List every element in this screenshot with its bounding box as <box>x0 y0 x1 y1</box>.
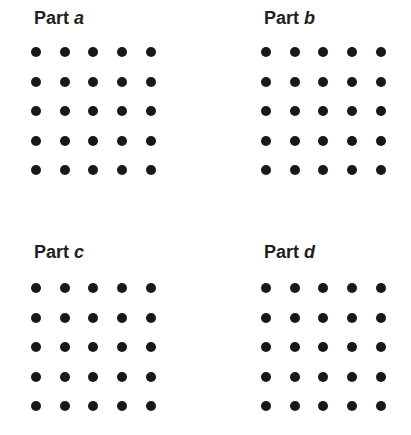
grid-dot <box>117 401 127 411</box>
grid-dot <box>261 77 271 87</box>
grid-dot <box>290 401 300 411</box>
panel-b-label: Part b <box>264 8 315 29</box>
label-letter: b <box>304 8 315 28</box>
grid-dot <box>88 313 98 323</box>
grid-dot <box>347 372 357 382</box>
grid-dot <box>347 342 357 352</box>
label-letter: a <box>74 8 84 28</box>
grid-dot <box>376 283 386 293</box>
grid-dot <box>146 342 156 352</box>
grid-dot <box>376 372 386 382</box>
panel-a: Part a <box>0 0 205 215</box>
grid-dot <box>347 136 357 146</box>
grid-dot <box>117 372 127 382</box>
grid-dot <box>88 283 98 293</box>
grid-dot <box>290 136 300 146</box>
grid-dot <box>261 342 271 352</box>
grid-dot <box>146 77 156 87</box>
grid-dot <box>290 106 300 116</box>
grid-dot <box>60 77 70 87</box>
grid-dot <box>31 372 41 382</box>
grid-dot <box>60 283 70 293</box>
grid-dot <box>318 283 328 293</box>
grid-dot <box>60 342 70 352</box>
grid-dot <box>31 47 41 57</box>
grid-dot <box>146 106 156 116</box>
grid-dot <box>318 165 328 175</box>
panel-d: Part d <box>230 236 411 435</box>
grid-dot <box>318 136 328 146</box>
grid-dot <box>117 342 127 352</box>
grid-dot <box>146 136 156 146</box>
grid-dot <box>261 283 271 293</box>
panel-c: Part c <box>0 236 205 435</box>
grid-dot <box>117 106 127 116</box>
grid-dot <box>347 47 357 57</box>
grid-dot <box>31 342 41 352</box>
grid-dot <box>88 77 98 87</box>
grid-dot <box>261 136 271 146</box>
grid-dot <box>60 106 70 116</box>
grid-dot <box>318 313 328 323</box>
grid-dot <box>60 401 70 411</box>
grid-dot <box>261 401 271 411</box>
grid-dot <box>31 136 41 146</box>
grid-dot <box>117 77 127 87</box>
grid-dot <box>376 313 386 323</box>
grid-dot <box>31 77 41 87</box>
grid-dot <box>376 77 386 87</box>
grid-dot <box>318 47 328 57</box>
grid-dot <box>376 401 386 411</box>
grid-dot <box>117 283 127 293</box>
grid-dot <box>117 165 127 175</box>
grid-dot <box>347 313 357 323</box>
grid-dot <box>318 342 328 352</box>
grid-dot <box>290 283 300 293</box>
grid-dot <box>318 401 328 411</box>
label-prefix: Part <box>34 8 69 28</box>
grid-dot <box>88 165 98 175</box>
grid-dot <box>347 283 357 293</box>
grid-dot <box>31 165 41 175</box>
grid-dot <box>117 47 127 57</box>
grid-dot <box>146 47 156 57</box>
grid-dot <box>31 313 41 323</box>
grid-dot <box>88 342 98 352</box>
grid-dot <box>261 47 271 57</box>
grid-dot <box>318 106 328 116</box>
grid-dot <box>88 47 98 57</box>
grid-dot <box>290 47 300 57</box>
grid-dot <box>318 372 328 382</box>
grid-dot <box>146 372 156 382</box>
grid-dot <box>31 401 41 411</box>
grid-dot <box>31 106 41 116</box>
grid-dot <box>117 136 127 146</box>
label-prefix: Part <box>264 8 299 28</box>
grid-dot <box>290 313 300 323</box>
label-letter: c <box>74 242 84 262</box>
label-prefix: Part <box>264 242 299 262</box>
grid-dot <box>318 77 328 87</box>
label-letter: d <box>304 242 315 262</box>
grid-dot <box>376 136 386 146</box>
grid-dot <box>347 106 357 116</box>
panel-b: Part b <box>230 0 411 215</box>
grid-dot <box>60 47 70 57</box>
grid-dot <box>146 283 156 293</box>
grid-dot <box>88 106 98 116</box>
grid-dot <box>31 283 41 293</box>
grid-dot <box>60 165 70 175</box>
grid-dot <box>347 77 357 87</box>
grid-dot <box>60 372 70 382</box>
label-prefix: Part <box>34 242 69 262</box>
grid-dot <box>347 401 357 411</box>
grid-dot <box>261 106 271 116</box>
grid-dot <box>347 165 357 175</box>
grid-dot <box>261 372 271 382</box>
grid-dot <box>290 372 300 382</box>
grid-dot <box>376 106 386 116</box>
panel-d-label: Part d <box>264 242 315 263</box>
grid-dot <box>60 136 70 146</box>
grid-dot <box>376 165 386 175</box>
panel-a-label: Part a <box>34 8 84 29</box>
